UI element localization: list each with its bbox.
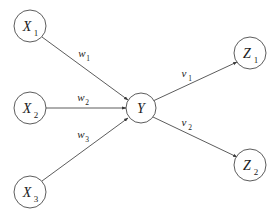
node-x3[interactable]: X3 [14,176,46,208]
edge-label-base: v [182,67,187,79]
edge-label-w2: w2 [77,91,89,107]
edge-label-subscript: 1 [86,54,90,63]
node-label-x2: X [22,101,32,116]
edge-label-w3: w3 [77,128,89,144]
node-subscript-x1: 1 [34,28,39,38]
edge-label-w1: w1 [78,47,90,63]
node-subscript-z2: 2 [254,167,259,177]
edge-label-base: w [77,91,85,103]
node-subscript-z1: 1 [254,55,259,65]
edge-x3-to-y [42,118,128,181]
nodes-layer: X1X2X3YZ1Z2 [14,10,266,208]
node-label-z1: Z [243,46,251,61]
node-label-z2: Z [243,158,251,173]
network-diagram: X1X2X3YZ1Z2 w1w2w3v1v2 [0,0,280,221]
edge-y-to-z1 [153,62,237,101]
edge-y-to-z2 [153,117,237,157]
edge-label-subscript: 2 [85,98,89,107]
node-subscript-x3: 3 [34,194,39,204]
node-z1[interactable]: Z1 [234,37,266,69]
edge-label-base: w [77,128,85,140]
edge-label-base: w [78,47,86,59]
node-x1[interactable]: X1 [14,10,46,42]
edge-label-subscript: 2 [188,123,192,132]
edge-label-subscript: 1 [188,74,192,83]
edge-label-v2: v2 [182,116,193,132]
edge-label-subscript: 3 [85,135,89,144]
node-x2[interactable]: X2 [14,92,46,124]
node-z2[interactable]: Z2 [234,149,266,181]
edge-label-v1: v1 [182,67,193,83]
node-y[interactable]: Y [126,93,156,123]
node-label-x1: X [22,19,32,34]
edge-label-base: v [182,116,187,128]
node-subscript-x2: 2 [34,110,39,120]
node-label-x3: X [22,185,32,200]
diagram-canvas: X1X2X3YZ1Z2 w1w2w3v1v2 [0,0,280,221]
